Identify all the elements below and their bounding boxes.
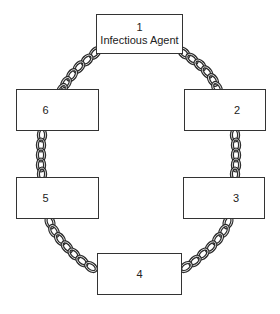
chain-2-3 [231, 129, 239, 180]
chain-1-2 [177, 46, 223, 95]
link-number: 3 [233, 192, 239, 205]
link-box-1: 1 Infectious Agent [96, 14, 183, 54]
link-number: 1 [136, 21, 142, 34]
link-box-3: 3 [183, 177, 265, 219]
link-box-6: 6 [16, 89, 99, 131]
link-box-2: 2 [184, 89, 266, 131]
link-number: 5 [42, 192, 48, 205]
link-box-5: 5 [16, 177, 99, 219]
chain-3-4 [179, 215, 233, 273]
link-label: Infectious Agent [100, 34, 178, 47]
link-number: 4 [136, 268, 142, 281]
link-box-4: 4 [97, 253, 182, 295]
link-number: 2 [234, 104, 240, 117]
chain-5-4 [45, 215, 98, 273]
link-number: 6 [42, 104, 48, 117]
chain-6-5 [37, 129, 45, 180]
